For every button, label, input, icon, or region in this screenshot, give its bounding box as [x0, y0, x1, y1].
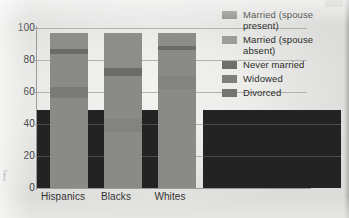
legend-label-married-spouse-present: Married (spouse present)	[243, 9, 346, 31]
legend-swatch-divorced	[222, 89, 237, 97]
segment-hispanics-divorced	[50, 87, 88, 98]
segment-blacks-never-married	[104, 76, 142, 119]
segment-blacks-married-absent	[104, 33, 142, 68]
x-tick-label-blacks: Blacks	[92, 191, 140, 202]
segment-whites-divorced	[158, 76, 196, 89]
segment-whites-married-absent	[158, 33, 196, 46]
y-tick-label-100: 100	[7, 22, 35, 33]
x-axis-line	[36, 188, 311, 189]
legend-item-married-spouse-present[interactable]: Married (spouse present)	[222, 9, 346, 31]
margin-glyph-artifact: f	[2, 168, 7, 185]
segment-hispanics-married-present	[50, 98, 88, 188]
y-tick-label-20: 20	[7, 150, 35, 161]
segment-whites-widowed	[158, 46, 196, 51]
y-tick-label-60: 60	[7, 86, 35, 97]
legend-item-widowed[interactable]: Widowed	[222, 73, 346, 84]
legend-label-never-married: Never married	[243, 59, 304, 70]
y-tick-label-80: 80	[7, 54, 35, 65]
legend-item-never-married[interactable]: Never married	[222, 59, 346, 70]
segment-hispanics-never-married	[50, 54, 88, 88]
legend-swatch-married-spouse-present	[222, 11, 237, 19]
x-tick-label-hispanics: Hispanics	[34, 191, 92, 202]
legend-label-widowed: Widowed	[243, 73, 283, 84]
segment-blacks-divorced	[104, 119, 142, 132]
chart-legend: Married (spouse present) Married (spouse…	[222, 9, 346, 101]
plot-area	[37, 28, 203, 188]
legend-label-divorced: Divorced	[243, 87, 281, 98]
legend-item-married-spouse-absent[interactable]: Married (spouse absent)	[222, 34, 346, 56]
legend-item-divorced[interactable]: Divorced	[222, 87, 346, 98]
scan-artifact-page-edge	[344, 0, 349, 218]
y-tick-label-0: 0	[7, 182, 35, 193]
legend-swatch-widowed	[222, 75, 237, 83]
y-tick-label-40: 40	[7, 118, 35, 129]
segment-whites-never-married	[158, 50, 196, 76]
legend-swatch-married-spouse-absent	[222, 36, 237, 44]
legend-swatch-never-married	[222, 61, 237, 69]
x-tick-label-whites: Whites	[145, 191, 195, 202]
segment-whites-married-present	[158, 89, 196, 188]
chart-screenshot: 100 80 60 40 20 0 Hi	[0, 0, 349, 218]
segment-hispanics-married-absent	[50, 33, 88, 49]
segment-hispanics-widowed	[50, 49, 88, 54]
segment-blacks-married-present	[104, 132, 142, 188]
legend-label-married-spouse-absent: Married (spouse absent)	[243, 34, 346, 56]
segment-blacks-widowed	[104, 68, 142, 76]
scan-artifact-corner-mark	[325, 0, 343, 7]
